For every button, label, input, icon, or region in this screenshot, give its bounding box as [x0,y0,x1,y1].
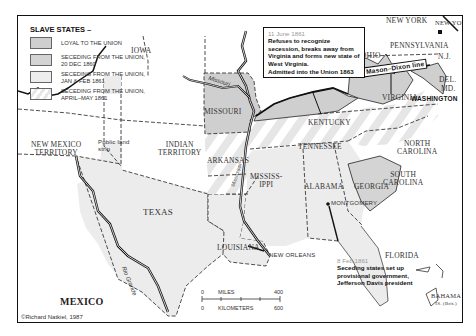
label-alabama: ALABAMA [304,183,343,191]
label-new-mexico-territory: NEW MEXICOTERRITORY [31,141,81,157]
map: SLAVE STATES – LOYAL TO THE UNION SECEDI… [17,15,463,323]
legend-label: SECEDING FROM THE UNION, [61,71,145,77]
note-text-admitted: Admitted into the Union 1863 [268,68,360,75]
legend-item-jan-feb-1861: SECEDING FROM THE UNION,JAN & FEB 1861 [30,71,145,85]
scale-miles-zero: 0 [201,289,204,295]
label-bahama-islands: BAHAMAIS. (Brit.) [431,292,461,307]
label-georgia: GEORGIA [354,183,389,191]
note-confederacy: 8 Feb 1861 Seceding states set up provis… [337,257,437,287]
note-text: Seceding states set up provisional gover… [337,264,413,286]
label-tennessee: TENNESSEE [298,143,342,151]
note-west-virginia: 11 June 1861 Refuses to recognize secess… [263,27,365,78]
legend-label-date: 20 DEC 1860 [61,61,96,67]
scale-miles-max: 400 [274,289,283,295]
legend-label-date: JAN & FEB 1861 [61,78,105,84]
scale-km-label: KILOMETERS [218,305,253,311]
label-mexico: MEXICO [60,298,103,306]
scale-miles-label: MILES [218,289,235,295]
label-public-land-strip: Public landstrip [98,139,130,153]
legend-item-loyal: LOYAL TO THE UNION [30,37,122,49]
label-md: MD. [441,85,456,93]
legend-label: SECEDING FROM THE UNION, [61,88,145,94]
legend-item-dec-1860: SECEDING FROM THE UNION,20 DEC 1860 [30,54,145,68]
note-date: 8 Feb 1861 [337,257,437,264]
legend-title: SLAVE STATES – [30,25,91,34]
scale-km-zero: 0 [201,305,204,311]
legend-swatch-jan-feb-1861 [30,71,52,83]
legend-swatch-loyal [30,37,52,49]
legend-label-date: APRIL–MAY 1861 [61,95,108,101]
legend-item-apr-may-1861: SECEDING FROM THE UNION,APRIL–MAY 1861 [30,88,145,102]
credit: ©Richard Natkiel, 1987 [21,314,83,320]
note-date: 11 June 1861 [268,30,360,37]
legend-label: LOYAL TO THE UNION [61,40,122,46]
label-missouri: MISSOURI [204,108,241,116]
scale-km-max: 600 [274,305,283,311]
label-new-york-city: NEW YORK [435,19,463,26]
note-text: Refuses to recognize secession, breaks a… [268,37,360,66]
label-texas: TEXAS [143,208,173,216]
label-indian-territory: INDIANTERRITORY [158,141,201,157]
label-north-carolina: NORTHCAROLINA [397,140,437,156]
legend-swatch-dec-1860 [30,54,52,66]
label-new-york-state: NEW YORK [386,17,427,25]
label-new-orleans: NEW ORLEANS [269,251,316,259]
label-kentucky: KENTUCKY [308,119,351,127]
label-del: DEL. [439,76,456,84]
label-iowa: IOWA [131,47,151,55]
label-montgomery: MONTGOMERY [331,199,377,207]
legend-swatch-apr-may-1861 [30,88,52,100]
label-pennsylvania: PENNSYLVANIA [390,42,449,50]
label-nj: N.J. [438,53,451,61]
label-mississippi: MISSISS-IPPI [250,173,282,189]
label-louisiana: LOUISIANA [217,244,260,252]
label-washington: WASHINGTON [411,95,458,103]
